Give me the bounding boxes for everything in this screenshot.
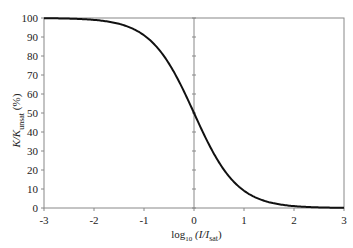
y-axis-label: K/Kunsat (%) (10, 71, 25, 171)
x-label-ratio: (I/I (192, 228, 209, 240)
x-tick-label: 3 (341, 214, 347, 226)
y-label-sub: unsat (17, 113, 26, 130)
x-label-sat: sat (209, 234, 218, 243)
x-axis-ticks: -3-2-10123 (39, 208, 347, 226)
x-tick-label: 1 (241, 214, 247, 226)
x-tick-label: -1 (139, 214, 148, 226)
y-tick-label: 70 (27, 69, 39, 81)
y-tick-label: 60 (27, 88, 39, 100)
y-tick-label: 0 (33, 202, 39, 214)
y-tick-label: 50 (27, 107, 39, 119)
chart: 0102030405060708090100 -3-2-10123 (0, 0, 353, 248)
y-label-unit: (%) (10, 94, 22, 111)
y-tick-label: 90 (27, 31, 39, 43)
x-tick-label: 2 (291, 214, 297, 226)
y-label-main: K/K (10, 130, 22, 148)
x-axis-label: log10 (I/Isat) (0, 228, 353, 243)
y-tick-label: 80 (27, 50, 39, 62)
x-tick-label: -2 (89, 214, 98, 226)
y-tick-label: 10 (27, 183, 39, 195)
y-tick-label: 30 (27, 145, 39, 157)
y-tick-label: 100 (22, 12, 39, 24)
x-label-close: ) (218, 228, 222, 240)
x-tick-label: -3 (39, 214, 49, 226)
x-label-log: log (171, 228, 185, 240)
y-tick-label: 40 (27, 126, 39, 138)
y-tick-label: 20 (27, 164, 39, 176)
x-tick-label: 0 (191, 214, 197, 226)
